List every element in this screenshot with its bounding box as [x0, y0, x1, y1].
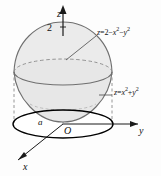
z-tick-label-2: 2: [47, 23, 52, 33]
z-axis-label: z: [57, 9, 61, 19]
radius-label-a: a: [38, 118, 43, 127]
origin-label: O: [64, 126, 71, 136]
lower-surface-equation-label: z=x2+y2: [114, 89, 139, 97]
x-axis-label: x: [23, 162, 27, 172]
upper-surface-equation-label: z=2−x2−y2: [97, 29, 130, 37]
figure-container: z 2 y x O a z=2−x2−y2 z=x2+y2: [0, 0, 161, 176]
y-axis-label: y: [139, 126, 143, 136]
eq-lower-y-exponent: 2: [136, 86, 139, 92]
eq-upper-y-exponent: 2: [127, 26, 130, 32]
